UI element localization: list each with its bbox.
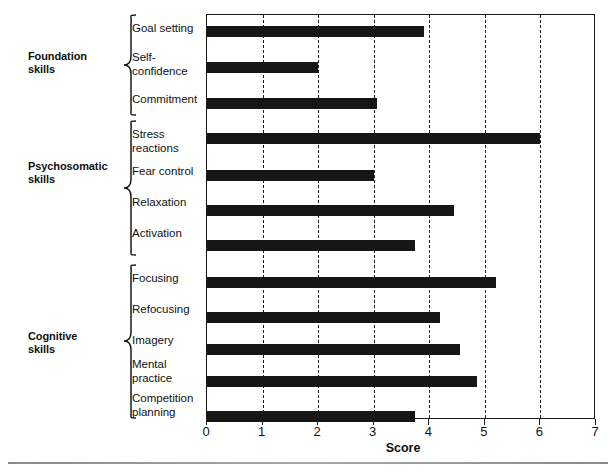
bar-activation xyxy=(207,240,415,251)
item-label-fear-control: Fear control xyxy=(132,165,193,179)
tick-label-0: 0 xyxy=(194,424,218,439)
gridline-3 xyxy=(374,15,375,418)
bar-imagery xyxy=(207,344,460,355)
bar-commitment xyxy=(207,98,377,109)
tick-label-6: 6 xyxy=(527,424,551,439)
gridline-5 xyxy=(485,15,486,418)
bar-relaxation xyxy=(207,205,454,216)
item-label-relaxation: Relaxation xyxy=(132,196,186,210)
group-label-psychosomatic-skills: Psychosomatic skills xyxy=(28,160,107,186)
x-axis-title: Score xyxy=(0,441,616,455)
tick-label-1: 1 xyxy=(250,424,274,439)
gridline-1 xyxy=(263,15,264,418)
bar-goal-setting xyxy=(207,26,424,37)
gridline-4 xyxy=(429,15,430,418)
gridline-6 xyxy=(540,15,541,418)
item-label-refocusing: Refocusing xyxy=(132,303,190,317)
item-label-commitment: Commitment xyxy=(132,93,197,107)
bar-focusing xyxy=(207,277,496,288)
tick-label-7: 7 xyxy=(583,424,607,439)
bar-self-confidence xyxy=(207,62,318,73)
footer-divider xyxy=(8,462,608,464)
item-label-stress-reactions: Stress reactions xyxy=(132,128,179,155)
bar-mental-practice xyxy=(207,376,477,387)
plot-area xyxy=(206,14,595,419)
tick-label-5: 5 xyxy=(472,424,496,439)
bar-fear-control xyxy=(207,170,374,181)
item-label-competition-planning: Competition planning xyxy=(132,392,193,419)
item-label-mental-practice: Mental practice xyxy=(132,358,172,385)
group-label-foundation-skills: Foundation skills xyxy=(28,50,87,76)
item-label-imagery: Imagery xyxy=(132,334,174,348)
tick-label-3: 3 xyxy=(361,424,385,439)
tick-label-4: 4 xyxy=(416,424,440,439)
bar-competition-planning xyxy=(207,411,415,422)
item-label-self-confidence: Self- confidence xyxy=(132,51,188,78)
item-label-focusing: Focusing xyxy=(132,272,179,286)
bar-chart-figure: Foundation skills Psychosomatic skills C… xyxy=(0,0,616,473)
item-label-activation: Activation xyxy=(132,227,182,241)
item-label-goal-setting: Goal setting xyxy=(132,22,193,36)
tick-label-2: 2 xyxy=(305,424,329,439)
gridline-2 xyxy=(318,15,319,418)
group-label-cognitive-skills: Cognitive skills xyxy=(28,330,77,356)
bar-refocusing xyxy=(207,312,440,323)
bar-stress-reactions xyxy=(207,133,540,144)
